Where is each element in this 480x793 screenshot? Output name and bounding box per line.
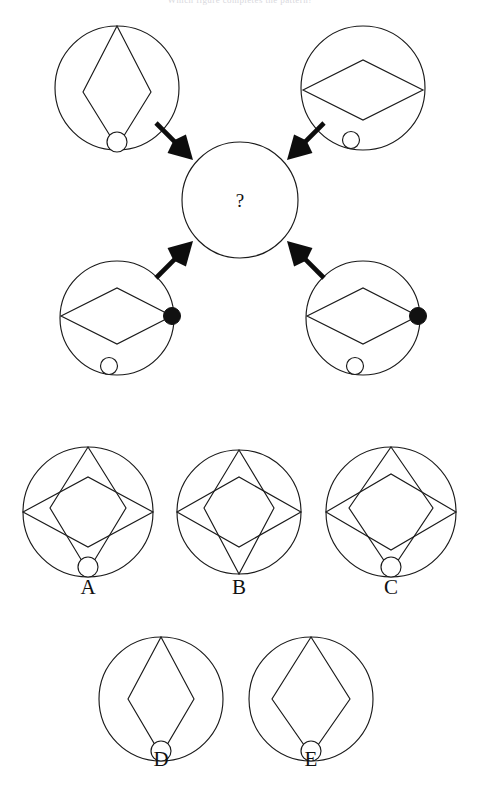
- arrow-from-top-left: [156, 123, 193, 160]
- option-c[interactable]: C: [326, 447, 456, 599]
- arrow-from-top-right: [287, 123, 324, 160]
- option-letter-label: C: [384, 575, 398, 599]
- bottom-open-circle-marker: [347, 358, 364, 375]
- puzzle-diagram: ? ABCDE: [0, 0, 480, 793]
- option-outer-circle[interactable]: [177, 450, 301, 574]
- answer-options-group: ABCDE: [23, 447, 456, 771]
- bottom-open-circle-marker: [343, 132, 360, 149]
- top-right-stimulus[interactable]: [301, 26, 425, 150]
- outer-circle[interactable]: [301, 26, 425, 150]
- option-letter-label: A: [80, 575, 96, 599]
- right-filled-dot-marker: [164, 308, 181, 325]
- bottom-open-circle-marker: [107, 132, 127, 152]
- option-bottom-open-circle-marker: [78, 557, 98, 577]
- outer-circle[interactable]: [55, 26, 179, 150]
- top-left-stimulus[interactable]: [55, 26, 179, 152]
- bottom-open-circle-marker: [101, 358, 118, 375]
- option-b[interactable]: B: [177, 450, 301, 599]
- option-a[interactable]: A: [23, 447, 153, 599]
- question-mark-label: ?: [236, 190, 244, 211]
- center-unknown-group[interactable]: ?: [182, 142, 298, 258]
- arrow-from-bottom-right: [287, 241, 324, 278]
- option-bottom-open-circle-marker: [381, 557, 401, 577]
- bottom-left-stimulus[interactable]: [60, 261, 181, 375]
- puzzle-canvas: ? ABCDE: [0, 0, 480, 793]
- right-filled-dot-marker: [410, 308, 427, 325]
- arrow-from-bottom-left: [156, 241, 193, 278]
- bottom-right-stimulus[interactable]: [306, 261, 427, 375]
- option-letter-label: E: [305, 747, 318, 771]
- option-d[interactable]: D: [99, 637, 223, 771]
- option-e[interactable]: E: [249, 637, 373, 771]
- option-letter-label: D: [153, 747, 168, 771]
- option-letter-label: B: [232, 575, 246, 599]
